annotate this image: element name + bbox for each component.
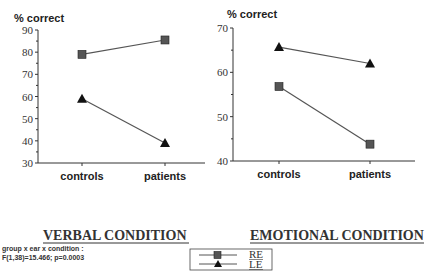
emotional-condition-title: EMOTIONAL CONDITION	[250, 228, 424, 243]
square-marker-icon	[161, 36, 169, 44]
y-tick-label: 40	[22, 135, 34, 147]
y-tick-label: 30	[22, 157, 34, 169]
y-tick-label: 60	[217, 66, 229, 78]
y-tick-label: 60	[22, 91, 34, 103]
series-line-re	[82, 40, 165, 54]
legend-le-label: LE	[249, 258, 263, 270]
y-tick-label: 90	[22, 24, 34, 36]
square-marker-icon	[366, 140, 374, 148]
series-line-le	[279, 47, 370, 63]
series-line-le	[82, 99, 165, 143]
x-category-label: patients	[349, 168, 391, 180]
square-marker-icon	[78, 50, 86, 58]
y-tick-label: 40	[217, 155, 229, 167]
x-category-label: controls	[60, 170, 103, 182]
verbal-chart: % correct30405060708090controlspatients	[14, 12, 205, 182]
triangle-marker-icon	[160, 138, 170, 147]
y-tick-label: 50	[217, 111, 229, 123]
square-marker-icon	[214, 252, 221, 259]
legend: RE LE	[190, 248, 272, 270]
y-tick-label: 70	[217, 22, 229, 34]
x-category-label: patients	[144, 170, 186, 182]
y-tick-label: 70	[22, 68, 34, 80]
triangle-marker-icon	[274, 42, 284, 51]
emotional-chart: % correct40506070controlspatients	[217, 8, 415, 180]
y-axis-title: % correct	[14, 12, 64, 24]
x-category-label: controls	[257, 168, 300, 180]
y-axis-title: % correct	[227, 8, 277, 20]
stat-line-1: group x ear x condition :	[2, 245, 84, 253]
square-marker-icon	[275, 83, 283, 91]
series-line-re	[279, 87, 370, 145]
y-tick-label: 50	[22, 113, 34, 125]
y-tick-label: 80	[22, 46, 34, 58]
stat-line-2: F(1,38)=15.466; p=0.0003	[2, 254, 84, 262]
verbal-condition-title: VERBAL CONDITION	[43, 228, 187, 243]
triangle-marker-icon	[77, 94, 87, 103]
figure: % correct30405060708090controlspatients …	[0, 0, 437, 274]
